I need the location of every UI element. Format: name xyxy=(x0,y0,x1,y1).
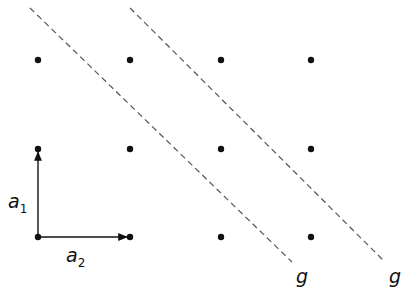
label-g-1: g xyxy=(296,265,308,287)
label-a1: a1 xyxy=(8,190,27,216)
label-g-2: g xyxy=(389,265,401,287)
lattice-point xyxy=(218,234,224,240)
lattice-point xyxy=(127,57,133,63)
lattice-point xyxy=(308,234,314,240)
label-a2: a2 xyxy=(66,244,85,270)
lattice-point xyxy=(127,146,133,152)
lattice-point xyxy=(35,57,41,63)
dashed-line-g-1 xyxy=(30,8,292,262)
lattice-diagram: a1 a2 g g xyxy=(0,0,412,305)
lattice-point xyxy=(218,57,224,63)
lattice-point xyxy=(35,234,41,240)
lattice-point xyxy=(308,146,314,152)
dashed-line-g-2 xyxy=(130,8,385,262)
lattice-point xyxy=(127,234,133,240)
diagram-svg: a1 a2 g g xyxy=(0,0,412,305)
lattice-point xyxy=(308,57,314,63)
lattice-point xyxy=(35,146,41,152)
lattice-point xyxy=(218,146,224,152)
